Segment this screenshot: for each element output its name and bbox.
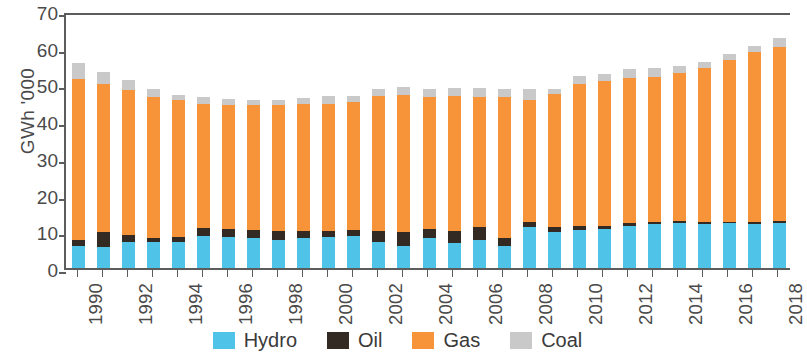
- legend-swatch-oil-icon: [327, 332, 349, 349]
- y-tick-mark: [59, 88, 66, 90]
- bar-segment-hydro: [172, 242, 185, 270]
- x-tick-mark: [327, 268, 328, 277]
- bar-segment-gas: [397, 95, 410, 232]
- x-tick-mark: [352, 268, 353, 277]
- y-tick-mark: [59, 52, 66, 54]
- x-tick-mark: [202, 268, 203, 277]
- bar-segment-hydro: [573, 230, 586, 270]
- bar-segment-hydro: [698, 224, 711, 270]
- x-tick-mark: [777, 268, 778, 277]
- x-tick-label: 2016: [735, 283, 757, 325]
- x-tick-mark: [127, 268, 128, 277]
- bar-segment-gas: [673, 73, 686, 222]
- bar-1991: [97, 72, 110, 270]
- bar-segment-coal: [573, 76, 586, 84]
- y-tick-label: 50: [24, 77, 58, 96]
- legend-swatch-hydro-icon: [213, 332, 235, 349]
- bar-segment-hydro: [598, 229, 611, 270]
- x-tick-mark: [77, 268, 78, 277]
- y-tick-mark: [59, 272, 66, 274]
- x-tick-mark: [452, 268, 453, 277]
- bar-segment-hydro: [397, 246, 410, 270]
- bar-segment-oil: [122, 235, 135, 243]
- bar-segment-gas: [423, 97, 436, 229]
- bar-segment-hydro: [723, 223, 736, 270]
- bar-segment-oil: [397, 232, 410, 246]
- bar-segment-oil: [423, 229, 436, 238]
- bar-segment-oil: [498, 238, 511, 246]
- x-tick-label: 2010: [585, 283, 607, 325]
- bar-segment-coal: [598, 74, 611, 81]
- bar-segment-gas: [548, 94, 561, 227]
- bar-segment-hydro: [72, 246, 85, 270]
- bar-1994: [172, 95, 185, 270]
- bar-segment-oil: [448, 231, 461, 243]
- bar-segment-coal: [423, 89, 436, 97]
- x-tick-label: 2000: [335, 283, 357, 325]
- bar-2004: [423, 89, 436, 270]
- bar-segment-hydro: [523, 227, 536, 270]
- x-tick-mark: [552, 268, 553, 277]
- bar-2015: [698, 62, 711, 270]
- x-tick-mark: [702, 268, 703, 277]
- bar-1997: [247, 100, 260, 270]
- legend-label: Gas: [443, 330, 480, 350]
- legend-item-oil[interactable]: Oil: [327, 330, 382, 350]
- bar-segment-gas: [448, 96, 461, 230]
- bar-segment-gas: [523, 100, 536, 223]
- bars-layer: [66, 15, 790, 270]
- bar-segment-hydro: [297, 238, 310, 270]
- bar-2000: [322, 96, 335, 270]
- bar-segment-gas: [473, 97, 486, 228]
- bar-2005: [448, 88, 461, 270]
- bar-segment-hydro: [448, 243, 461, 270]
- x-tick-mark: [477, 268, 478, 277]
- bar-segment-coal: [523, 89, 536, 100]
- bar-2014: [673, 66, 686, 270]
- legend-swatch-gas-icon: [412, 332, 434, 349]
- bar-segment-hydro: [423, 238, 436, 270]
- bar-segment-hydro: [247, 238, 260, 270]
- bar-segment-hydro: [147, 242, 160, 270]
- bar-segment-gas: [147, 97, 160, 237]
- legend-item-gas[interactable]: Gas: [412, 330, 480, 350]
- x-tick-mark: [502, 268, 503, 277]
- bar-segment-gas: [648, 77, 661, 223]
- bar-segment-gas: [723, 60, 736, 222]
- x-tick-label: 2002: [385, 283, 407, 325]
- y-tick-mark: [59, 125, 66, 127]
- legend-swatch-coal-icon: [510, 332, 532, 349]
- bar-2016: [723, 54, 736, 270]
- legend-item-hydro[interactable]: Hydro: [213, 330, 297, 350]
- bar-1995: [197, 97, 210, 270]
- bar-1996: [222, 99, 235, 270]
- bar-segment-gas: [247, 105, 260, 230]
- bar-segment-coal: [397, 87, 410, 95]
- bar-segment-gas: [748, 52, 761, 222]
- bar-segment-oil: [247, 230, 260, 238]
- x-tick-label: 2008: [535, 283, 557, 325]
- bar-segment-coal: [648, 68, 661, 77]
- y-tick-mark: [59, 162, 66, 164]
- bar-segment-gas: [297, 104, 310, 231]
- bar-segment-hydro: [498, 246, 511, 270]
- x-tick-label: 1994: [185, 283, 207, 325]
- bar-2018: [773, 38, 786, 270]
- legend-item-coal[interactable]: Coal: [510, 330, 582, 350]
- x-tick-mark: [427, 268, 428, 277]
- bar-segment-oil: [473, 227, 486, 239]
- y-tick-label: 70: [24, 4, 58, 23]
- bar-segment-gas: [347, 102, 360, 230]
- x-tick-mark: [152, 268, 153, 277]
- x-tick-mark: [227, 268, 228, 277]
- bar-segment-gas: [72, 79, 85, 241]
- bar-segment-hydro: [197, 236, 210, 270]
- bar-segment-gas: [498, 97, 511, 238]
- bar-segment-oil: [222, 229, 235, 237]
- bar-2013: [648, 68, 661, 270]
- x-tick-mark: [527, 268, 528, 277]
- x-axis: [64, 268, 790, 270]
- x-tick-mark: [302, 268, 303, 277]
- x-tick-label: 2012: [635, 283, 657, 325]
- bar-segment-hydro: [748, 224, 761, 270]
